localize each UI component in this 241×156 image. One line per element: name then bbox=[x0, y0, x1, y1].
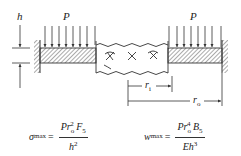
max-stress-formula: σmax = Pro2 F5 h2 bbox=[29, 120, 88, 153]
thickness-label: h bbox=[17, 11, 23, 22]
pressure-label-right: P bbox=[190, 11, 197, 22]
thickness-dimension bbox=[12, 25, 30, 88]
pressure-label-left: P bbox=[63, 11, 70, 22]
left-plate-section bbox=[40, 48, 96, 63]
radius-dimensions bbox=[128, 73, 222, 106]
stress-fraction: Pro2 F5 h2 bbox=[59, 120, 88, 153]
right-fixed-support bbox=[222, 40, 228, 73]
inner-radius-label: ri bbox=[145, 80, 151, 93]
max-deflection-formula: wmax = Pro4 B5 Eh3 bbox=[144, 120, 205, 153]
right-plate-section bbox=[168, 48, 222, 63]
break-section bbox=[96, 41, 168, 75]
left-pressure-arrows bbox=[45, 26, 95, 47]
deflection-fraction: Pro4 B5 Eh3 bbox=[175, 120, 204, 153]
left-fixed-support bbox=[34, 40, 40, 73]
right-pressure-arrows bbox=[169, 26, 221, 47]
outer-radius-label: ro bbox=[193, 95, 200, 108]
